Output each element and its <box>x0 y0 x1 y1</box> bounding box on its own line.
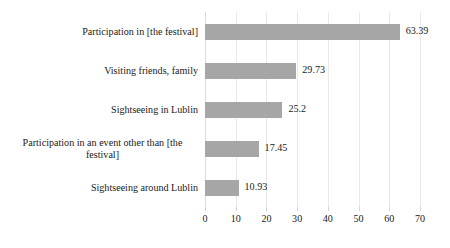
bar-track: 29.73 <box>205 63 325 79</box>
bar-row: Participation in [the festival]63.39 <box>205 12 420 51</box>
category-label: Participation in an event other than [th… <box>7 137 205 161</box>
x-tick-label: 30 <box>292 213 302 225</box>
category-label: Sightseeing around Lublin <box>7 182 205 194</box>
bar <box>205 141 259 157</box>
x-tick-mark <box>266 207 267 211</box>
category-label: Participation in [the festival] <box>7 26 205 38</box>
bar-track: 63.39 <box>205 24 428 40</box>
bar-chart: Participation in [the festival]63.39Visi… <box>0 0 450 248</box>
x-tick-label: 50 <box>354 213 364 225</box>
x-tick-mark <box>359 207 360 211</box>
x-tick-label: 60 <box>384 213 394 225</box>
bar-value-label: 29.73 <box>302 65 325 75</box>
bar <box>205 102 282 118</box>
bar-track: 10.93 <box>205 180 267 196</box>
bar-row: Participation in an event other than [th… <box>205 129 420 168</box>
x-tick-label: 40 <box>323 213 333 225</box>
x-tick-label: 70 <box>415 213 425 225</box>
bar-track: 25.2 <box>205 102 306 118</box>
x-tick-mark <box>236 207 237 211</box>
x-tick-mark <box>297 207 298 211</box>
bar-row: Sightseeing around Lublin10.93 <box>205 168 420 207</box>
plot-area: Participation in [the festival]63.39Visi… <box>205 12 420 207</box>
x-tick-mark <box>328 207 329 211</box>
x-tick-label: 0 <box>202 213 207 225</box>
x-tick-label: 10 <box>231 213 241 225</box>
x-tick-label: 20 <box>261 213 271 225</box>
category-label: Visiting friends, family <box>7 65 205 77</box>
bar-value-label: 25.2 <box>288 104 306 114</box>
gridline-70 <box>420 12 421 207</box>
x-tick-mark <box>389 207 390 211</box>
bar-track: 17.45 <box>205 141 287 157</box>
category-label: Sightseeing in Lublin <box>7 104 205 116</box>
bar-value-label: 63.39 <box>406 26 429 36</box>
bar-row: Visiting friends, family29.73 <box>205 51 420 90</box>
bar-value-label: 10.93 <box>245 182 268 192</box>
x-tick-mark <box>205 207 206 211</box>
x-tick-mark <box>420 207 421 211</box>
bar-row: Sightseeing in Lublin25.2 <box>205 90 420 129</box>
x-axis: 010203040506070 <box>205 207 420 237</box>
bar <box>205 24 400 40</box>
bar <box>205 180 239 196</box>
bar-value-label: 17.45 <box>265 143 288 153</box>
bar <box>205 63 296 79</box>
